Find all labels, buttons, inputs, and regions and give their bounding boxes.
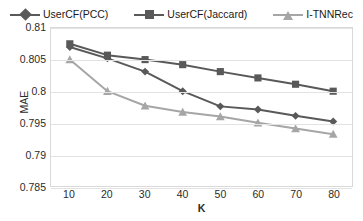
legend-label-usercf-pcc: UserCF(PCC) bbox=[43, 9, 108, 20]
y-axis-tick-label: 0.79 bbox=[2, 150, 46, 161]
square-marker-icon bbox=[66, 40, 73, 47]
chart-container: UserCF(PCC) UserCF(Jaccard) I-TNNRec 0.8… bbox=[0, 0, 363, 221]
legend-item-i-tnnrec[interactable]: I-TNNRec bbox=[273, 9, 353, 20]
x-axis-title: K bbox=[50, 203, 353, 214]
plot-area bbox=[50, 27, 353, 187]
square-marker-icon bbox=[292, 81, 299, 88]
legend-key-triangle-icon bbox=[273, 9, 303, 20]
x-axis-tick-label: 40 bbox=[168, 189, 198, 200]
chart-legend: UserCF(PCC) UserCF(Jaccard) I-TNNRec bbox=[0, 6, 363, 22]
diamond-marker-icon bbox=[141, 68, 149, 76]
gridline bbox=[51, 28, 352, 29]
gridline bbox=[51, 92, 352, 93]
diamond-marker-icon bbox=[292, 112, 300, 120]
x-axis-tick-label: 50 bbox=[205, 189, 235, 200]
y-axis-tick-label: 0.785 bbox=[2, 182, 46, 193]
y-axis-title: MAE bbox=[18, 72, 30, 132]
gridline bbox=[51, 60, 352, 61]
gridline bbox=[51, 124, 352, 125]
y-axis-tick-label: 0.81 bbox=[2, 22, 46, 33]
x-axis-tick-label: 10 bbox=[54, 189, 84, 200]
square-marker-icon bbox=[254, 74, 261, 81]
series-line bbox=[70, 60, 333, 135]
x-axis-tick-label: 70 bbox=[281, 189, 311, 200]
legend-item-usercf-jaccard[interactable]: UserCF(Jaccard) bbox=[134, 9, 247, 20]
x-axis-tick-label: 60 bbox=[243, 189, 273, 200]
series-usercf-jaccard bbox=[66, 40, 337, 95]
diamond-marker-icon bbox=[216, 102, 224, 110]
triangle-marker-icon bbox=[283, 11, 293, 20]
legend-item-usercf-pcc[interactable]: UserCF(PCC) bbox=[10, 9, 108, 20]
x-axis-tick-label: 20 bbox=[92, 189, 122, 200]
legend-key-diamond-icon bbox=[10, 9, 40, 20]
series-layer bbox=[51, 28, 352, 186]
legend-label-i-tnnrec: I-TNNRec bbox=[306, 9, 353, 20]
diamond-marker-icon bbox=[19, 8, 32, 21]
square-marker-icon bbox=[104, 52, 111, 59]
square-marker-icon bbox=[145, 10, 154, 19]
square-marker-icon bbox=[217, 68, 224, 75]
x-axis-tick-labels: 1020304050607080 bbox=[50, 189, 353, 203]
y-axis-tick-label: 0.805 bbox=[2, 54, 46, 65]
gridline bbox=[51, 156, 352, 157]
x-axis-tick-label: 80 bbox=[319, 189, 349, 200]
legend-key-square-icon bbox=[134, 9, 164, 20]
x-axis-tick-label: 30 bbox=[130, 189, 160, 200]
square-marker-icon bbox=[179, 61, 186, 68]
legend-label-usercf-jaccard: UserCF(Jaccard) bbox=[167, 9, 247, 20]
diamond-marker-icon bbox=[254, 106, 262, 114]
